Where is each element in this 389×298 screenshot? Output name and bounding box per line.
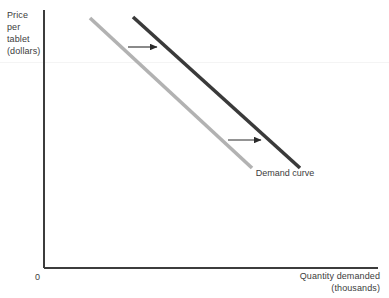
demand-curve-annotation: Demand curve — [248, 167, 322, 179]
plot-canvas — [0, 0, 389, 298]
x-axis-label: Quantity demanded (thousands) — [258, 270, 380, 294]
demand-curve-original — [90, 18, 252, 168]
demand-curve-figure: Price per tablet (dollars) Quantity dema… — [0, 0, 389, 298]
demand-curve-shifted — [133, 17, 300, 168]
origin-label: 0 — [35, 272, 40, 283]
y-axis-label: Price per tablet (dollars) — [7, 9, 40, 57]
